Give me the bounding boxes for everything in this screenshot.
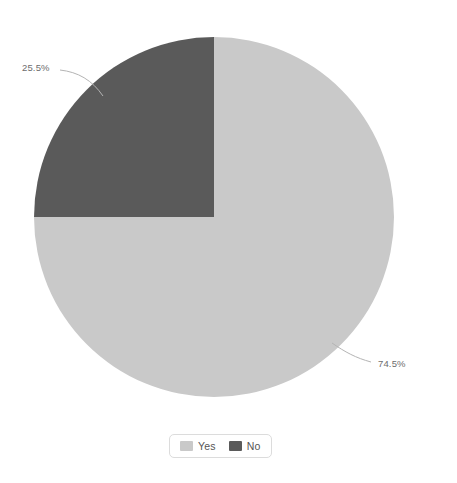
- legend-label-no: No: [247, 440, 261, 452]
- legend-item-yes[interactable]: Yes: [180, 440, 216, 452]
- chart-legend: Yes No: [169, 434, 272, 458]
- data-label-yes: 74.5%: [378, 358, 406, 369]
- legend-item-no[interactable]: No: [229, 440, 261, 452]
- legend-swatch-yes-icon: [180, 441, 193, 451]
- legend-label-yes: Yes: [198, 440, 216, 452]
- pie-chart-figure: 25.5% 74.5% Yes No: [0, 0, 457, 483]
- data-label-no: 25.5%: [22, 62, 50, 73]
- pie-slice-no[interactable]: [34, 37, 214, 217]
- legend-swatch-no-icon: [229, 441, 242, 451]
